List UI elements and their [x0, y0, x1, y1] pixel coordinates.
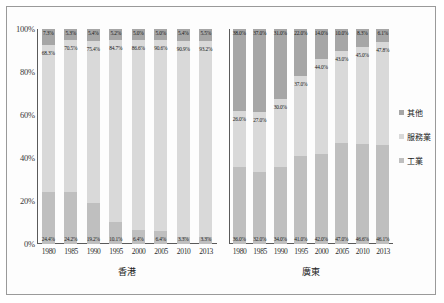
bar-column[interactable]: 5.0%86.6%6.4%	[132, 29, 145, 244]
bar-segment-industry: 46.1%	[376, 145, 389, 244]
bar-segment-service: 47.8%	[376, 42, 389, 145]
bar-segment-industry: 36.0%	[233, 167, 246, 244]
bar-segment-industry: 46.6%	[356, 144, 369, 244]
bar-segment-other: 37.0%	[253, 29, 266, 112]
bar-segment-label-industry: 24.4%	[42, 237, 55, 242]
bar-segment-service: 30.0%	[274, 99, 287, 167]
legend-label: 其他	[407, 107, 423, 118]
legend-item[interactable]: 工業	[399, 155, 444, 166]
bars-hongkong: 7.3%68.3%24.4%5.3%70.5%24.2%5.4%75.4%19.…	[37, 29, 217, 244]
x-axis-tick-label: 2013	[199, 247, 212, 256]
bar-segment-label-service: 84.7%	[109, 46, 122, 51]
bar-segment-industry: 42.0%	[315, 154, 328, 244]
bar-segment-label-other: 5.0%	[133, 31, 143, 36]
x-axis-tick-label: 2010	[356, 247, 369, 256]
bar-segment-other: 5.0%	[132, 29, 145, 40]
bar-segment-industry: 6.4%	[132, 230, 145, 244]
y-axis-tick-label: 80%	[20, 67, 35, 77]
panel-hongkong-plot: 7.3%68.3%24.4%5.3%70.5%24.2%5.4%75.4%19.…	[37, 29, 217, 244]
bar-column[interactable]: 5.4%90.9%3.3%	[177, 29, 190, 244]
panel-title-hongkong: 香港	[37, 265, 217, 278]
bar-segment-other: 5.3%	[64, 29, 77, 40]
bar-segment-service: 75.4%	[87, 41, 100, 203]
bar-segment-service: 68.3%	[42, 45, 55, 192]
bar-column[interactable]: 8.3%45.0%46.6%	[356, 29, 369, 244]
bar-segment-label-service: 27.0%	[253, 118, 266, 123]
x-axis-tick-label: 1980	[233, 247, 246, 256]
bar-segment-label-service: 44.0%	[315, 65, 328, 70]
bar-segment-industry: 10.1%	[109, 222, 122, 244]
bar-segment-other: 5.5%	[199, 29, 212, 41]
x-axis-ticks-guangdong: 19801985199019952000200520102013	[229, 247, 393, 261]
bar-segment-industry: 3.3%	[177, 237, 190, 244]
x-axis-tick-label: 2000	[315, 247, 328, 256]
bar-segment-label-other: 10.0%	[335, 31, 348, 36]
panel-title-guangdong: 廣東	[229, 265, 393, 278]
bar-column[interactable]: 6.1%47.8%46.1%	[376, 29, 389, 244]
bar-segment-service: 44.0%	[315, 59, 328, 154]
bar-column[interactable]: 7.3%68.3%24.4%	[42, 29, 55, 244]
bar-segment-label-industry: 6.4%	[156, 237, 166, 242]
bar-segment-label-industry: 42.0%	[315, 237, 328, 242]
bar-segment-other: 22.0%	[294, 29, 307, 76]
chart-legend: 其他服務業工業	[399, 107, 444, 179]
bar-segment-other: 38.0%	[233, 29, 246, 111]
bar-column[interactable]: 5.0%90.6%6.4%	[154, 29, 167, 244]
bar-segment-industry: 6.4%	[154, 231, 167, 244]
bar-segment-label-industry: 6.4%	[133, 237, 143, 242]
bar-segment-service: 86.6%	[132, 40, 145, 230]
bar-segment-label-service: 30.0%	[274, 105, 287, 110]
bar-column[interactable]: 10.0%43.0%47.0%	[335, 29, 348, 244]
x-axis-tick-label: 1980	[42, 247, 55, 256]
bar-column[interactable]: 37.0%27.0%32.0%	[253, 29, 266, 244]
bar-column[interactable]: 5.4%75.4%19.2%	[87, 29, 100, 244]
bar-column[interactable]: 5.2%84.7%10.1%	[109, 29, 122, 244]
bar-segment-label-service: 90.9%	[177, 47, 190, 52]
bar-segment-service: 27.0%	[253, 112, 266, 172]
x-axis-tick-label: 1990	[274, 247, 287, 256]
bar-segment-label-service: 37.0%	[294, 82, 307, 87]
bar-segment-label-industry: 34.0%	[274, 237, 287, 242]
legend-swatch-icon	[399, 110, 404, 115]
bar-segment-industry: 32.0%	[253, 172, 266, 244]
bar-segment-label-other: 14.0%	[315, 31, 328, 36]
bar-segment-industry: 19.2%	[87, 203, 100, 244]
bar-column[interactable]: 31.0%30.0%34.0%	[274, 29, 287, 244]
bar-column[interactable]: 38.0%26.0%36.0%	[233, 29, 246, 244]
bar-column[interactable]: 22.0%37.0%41.0%	[294, 29, 307, 244]
bar-segment-service: 70.5%	[64, 40, 77, 192]
x-axis-tick-label: 2013	[376, 247, 389, 256]
bar-segment-service: 37.0%	[294, 76, 307, 156]
bar-column[interactable]: 14.0%44.0%42.0%	[315, 29, 328, 244]
legend-item[interactable]: 服務業	[399, 131, 444, 142]
x-axis-tick-label: 1990	[87, 247, 100, 256]
x-axis-tick-label: 1995	[109, 247, 122, 256]
y-axis-tick-label: 40%	[20, 153, 35, 163]
bar-segment-label-other: 5.4%	[88, 31, 98, 36]
bar-segment-service: 90.6%	[154, 40, 167, 231]
bar-segment-label-other: 5.2%	[111, 31, 121, 36]
bar-segment-label-other: 5.3%	[66, 31, 76, 36]
bar-segment-label-industry: 3.3%	[178, 237, 188, 242]
bar-segment-service: 26.0%	[233, 111, 246, 167]
x-axis-tick-label: 2005	[335, 247, 348, 256]
y-axis-tick-label: 100%	[16, 24, 35, 34]
bar-segment-other: 5.2%	[109, 29, 122, 40]
bar-column[interactable]: 5.3%70.5%24.2%	[64, 29, 77, 244]
bar-segment-label-other: 8.3%	[357, 31, 367, 36]
bar-column[interactable]: 5.5%93.2%3.3%	[199, 29, 212, 244]
y-axis-tick-label: 60%	[20, 110, 35, 120]
legend-swatch-icon	[399, 134, 404, 139]
bar-segment-industry: 47.0%	[335, 143, 348, 244]
y-axis-tick-label: 0%	[24, 239, 35, 249]
y-axis: 0%20%40%60%80%100%	[7, 29, 37, 244]
bar-segment-other: 8.3%	[356, 29, 369, 47]
legend-item[interactable]: 其他	[399, 107, 444, 118]
bar-segment-label-service: 68.3%	[42, 51, 55, 56]
legend-label: 服務業	[407, 131, 431, 142]
bar-segment-label-industry: 41.0%	[294, 237, 307, 242]
bar-segment-label-service: 70.5%	[64, 46, 77, 51]
bar-segment-label-service: 43.0%	[335, 57, 348, 62]
bar-segment-other: 5.4%	[87, 29, 100, 41]
bar-segment-label-industry: 24.2%	[64, 237, 77, 242]
